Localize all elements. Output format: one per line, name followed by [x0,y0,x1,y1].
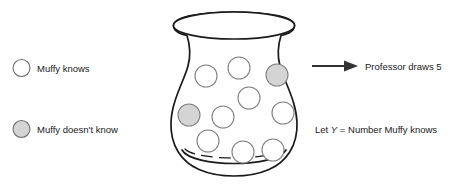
ball-muffy-knows [238,87,260,109]
ball-muffy-knows [272,102,294,124]
empty-circle-icon [13,60,30,77]
ball-muffy-knows [262,139,284,161]
professor-draws-label: Professor draws 5 [365,61,442,72]
urn-jar [171,12,297,176]
ball-muffy-knows [228,57,250,79]
definition-prefix: Let [315,124,331,135]
filled-circle-icon [13,121,30,138]
ball-muffy-doesnt-know [266,64,288,86]
urn-rim-ellipse [174,12,295,39]
legend-label-muffy-knows: Muffy knows [37,63,90,74]
urn-sampling-figure: Muffy knows Muffy doesn't know [0,0,473,190]
ball-muffy-knows [232,141,254,163]
ball-muffy-knows [195,65,217,87]
legend-label-muffy-doesnt-know: Muffy doesn't know [37,124,118,135]
random-variable-definition-label: Let Y = Number Muffy knows [315,124,437,135]
definition-suffix: = Number Muffy knows [337,124,437,135]
ball-muffy-knows [197,130,219,152]
ball-muffy-doesnt-know [178,104,200,126]
ball-muffy-knows [212,106,234,128]
